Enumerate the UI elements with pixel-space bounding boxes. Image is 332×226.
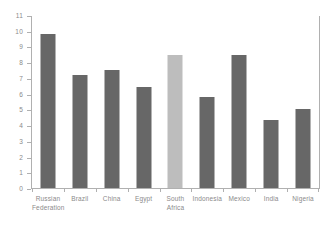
y-axis-tick-mark — [27, 158, 31, 159]
bar[interactable] — [168, 55, 183, 188]
y-axis-tick-mark — [27, 16, 31, 17]
bar-slot — [32, 16, 64, 188]
bar-slot — [64, 16, 96, 188]
y-axis-tick-label: 3 — [19, 137, 23, 146]
bar[interactable] — [264, 120, 279, 188]
bar[interactable] — [40, 34, 55, 188]
y-axis-tick-label: 4 — [19, 121, 23, 130]
bar[interactable] — [200, 97, 215, 188]
x-axis-tick-label: Mexico — [223, 195, 255, 204]
bar[interactable] — [296, 109, 311, 188]
y-axis-tick-mark — [27, 142, 31, 143]
y-axis-tick-label: 1 — [19, 168, 23, 177]
y-axis-tick-mark — [27, 63, 31, 64]
y-axis-tick-mark — [27, 32, 31, 33]
bar-series — [32, 16, 319, 188]
x-axis-labels: Russian FederationBrazilChinaEgyptSouth … — [32, 195, 319, 223]
x-axis-tick-label: India — [255, 195, 287, 204]
y-axis-tick-label: 2 — [19, 153, 23, 162]
x-axis-tick-label: China — [96, 195, 128, 204]
bar-slot — [191, 16, 223, 188]
bar-slot — [223, 16, 255, 188]
y-axis-tick-mark — [27, 173, 31, 174]
x-axis-tick-mark — [64, 189, 65, 192]
y-axis-tick-mark — [27, 126, 31, 127]
x-axis-tick-mark — [32, 189, 33, 192]
x-axis-tick-mark — [191, 189, 192, 192]
bar-slot — [96, 16, 128, 188]
x-axis-tick-label: Brazil — [64, 195, 96, 204]
x-axis-tick-mark — [287, 189, 288, 192]
y-axis-tick-label: 0 — [19, 184, 23, 193]
x-axis-tick-label: Nigeria — [287, 195, 319, 204]
x-axis-tick-label: Russian Federation — [32, 195, 64, 212]
y-axis-tick-label: 9 — [19, 42, 23, 51]
bar-slot — [255, 16, 287, 188]
bar[interactable] — [104, 70, 119, 188]
y-axis-tick-mark — [27, 47, 31, 48]
x-axis-tick-label: South Africa — [160, 195, 192, 212]
y-axis-tick-label: 11 — [16, 11, 23, 20]
x-axis-tick-label: Indonesia — [191, 195, 223, 204]
y-axis-tick-label: 7 — [19, 74, 23, 83]
x-axis-tick-mark — [96, 189, 97, 192]
x-axis-tick-mark — [128, 189, 129, 192]
bar[interactable] — [136, 87, 151, 188]
bar[interactable] — [72, 75, 87, 188]
x-axis-tick-mark — [160, 189, 161, 192]
bar[interactable] — [232, 55, 247, 188]
bar-slot — [128, 16, 160, 188]
y-axis-tick-label: 5 — [19, 105, 23, 114]
y-axis-tick-label: 6 — [19, 90, 23, 99]
x-axis-tick-mark — [318, 189, 319, 192]
x-axis-ticks — [32, 189, 319, 193]
x-axis-tick-label: Egypt — [128, 195, 160, 204]
bar-slot — [287, 16, 319, 188]
y-axis-tick-label: 10 — [15, 27, 23, 36]
y-axis-tick-mark — [27, 95, 31, 96]
x-axis-tick-mark — [255, 189, 256, 192]
y-axis-tick-mark — [27, 79, 31, 80]
bar-slot — [160, 16, 192, 188]
y-axis-tick-mark — [27, 189, 31, 190]
y-axis-tick-label: 8 — [19, 58, 23, 67]
x-axis-tick-mark — [223, 189, 224, 192]
bar-chart: 11109876543210 Russian FederationBrazilC… — [0, 0, 332, 226]
y-axis: 11109876543210 — [0, 16, 31, 189]
y-axis-tick-mark — [27, 110, 31, 111]
